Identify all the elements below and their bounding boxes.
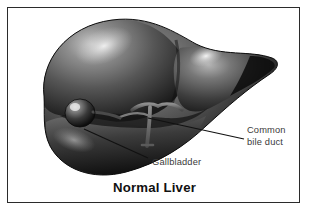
label-gallbladder: Gallbladder: [152, 157, 201, 169]
label-gallbladder-line1: Gallbladder: [152, 157, 201, 169]
liver-anatomy-figure: Common bile duct Gallbladder Normal Live…: [0, 0, 309, 213]
label-common-bile-duct-line1: Common: [247, 125, 286, 137]
label-common-bile-duct-line2: bile duct: [247, 137, 286, 149]
figure-title: Normal Liver: [0, 180, 309, 195]
gallbladder-highlight: [70, 103, 80, 111]
liver-body: [42, 19, 278, 175]
label-common-bile-duct: Common bile duct: [247, 125, 286, 148]
